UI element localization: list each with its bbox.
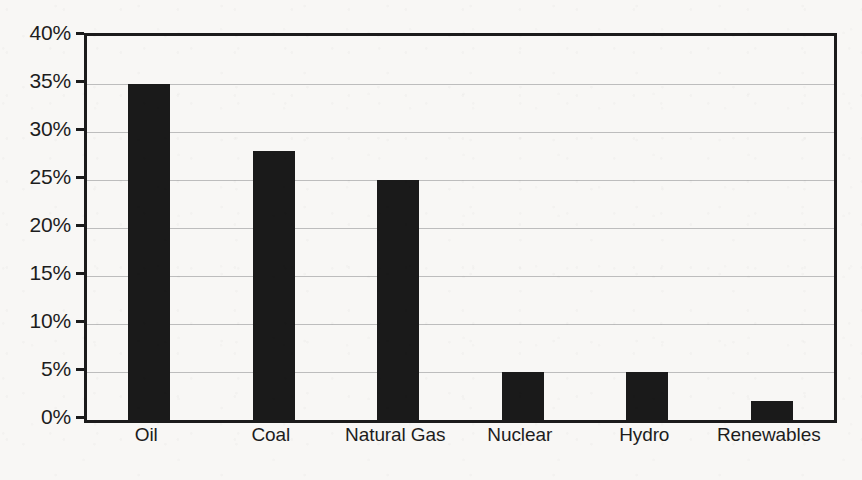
x-tick-label-renewables: Renewables [717,424,821,446]
gridline [87,372,834,373]
y-tick-label: 30% [30,117,71,141]
gridline [87,324,834,325]
gridline [87,228,834,229]
plot-area [84,33,837,423]
y-tick-mark [76,416,84,419]
x-tick-label-hydro: Hydro [619,424,669,446]
bar-natural-gas [377,180,419,420]
gridline [87,180,834,181]
x-tick-label-natural-gas: Natural Gas [345,424,445,446]
y-tick-mark [76,368,84,371]
bar-oil [128,84,170,420]
x-tick-label-oil: Oil [135,424,158,446]
y-tick-mark [76,272,84,275]
bar-hydro [626,372,668,420]
y-tick-label: 10% [30,309,71,333]
y-tick-mark [76,80,84,83]
bar-coal [253,151,295,420]
y-tick-mark [76,32,84,35]
y-tick-label: 35% [30,69,71,93]
y-tick-label: 5% [41,357,71,381]
gridline [87,84,834,85]
bar-nuclear [502,372,544,420]
y-tick-mark [76,224,84,227]
bar-renewables [751,401,793,420]
x-tick-label-nuclear: Nuclear [487,424,552,446]
gridline [87,276,834,277]
y-tick-mark [76,320,84,323]
y-tick-label: 20% [30,213,71,237]
y-tick-label: 40% [30,21,71,45]
y-tick-mark [76,176,84,179]
y-tick-label: 15% [30,261,71,285]
bar-chart-figure: 40%35%30%25%20%15%10%5%0% OilCoalNatural… [0,0,862,480]
y-tick-label: 25% [30,165,71,189]
x-tick-label-coal: Coal [251,424,290,446]
y-tick-mark [76,128,84,131]
y-tick-label: 0% [41,405,71,429]
gridline [87,132,834,133]
